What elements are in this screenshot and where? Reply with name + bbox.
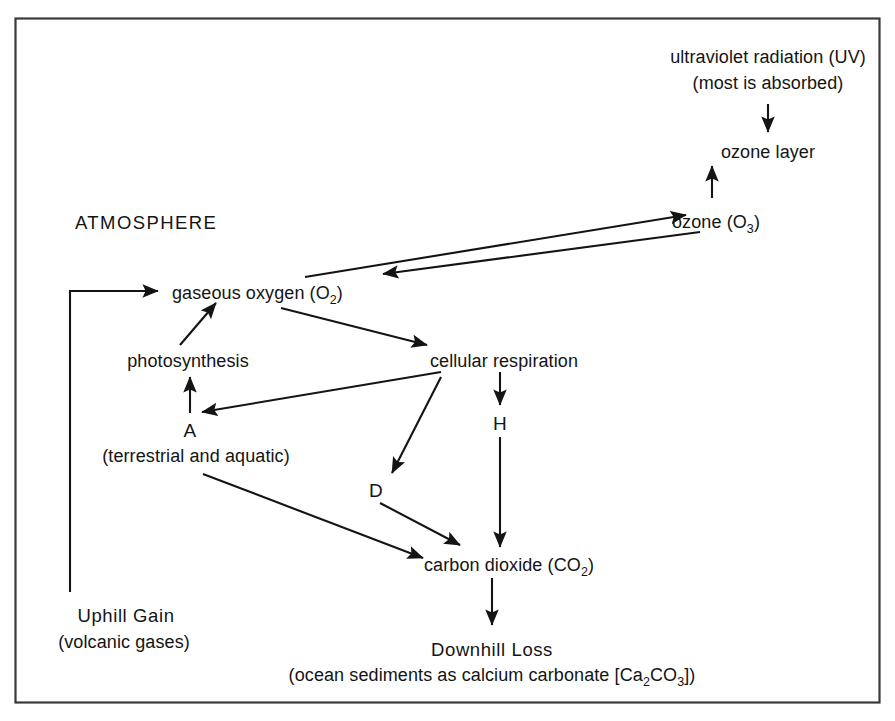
node-cellular-respiration: cellular respiration	[430, 351, 578, 371]
node-ozone-layer: ozone layer	[721, 142, 815, 162]
edge-uphill-gain-to-oxygen	[70, 291, 158, 592]
node-ozone: ozone (O3)	[672, 212, 760, 236]
edge-oxygen-to-cellular-respiration	[281, 308, 427, 345]
node-carbon-dioxide: carbon dioxide (CO2)	[424, 555, 594, 579]
node-downhill-loss-caption-sub1: 2	[643, 675, 650, 689]
node-downhill-loss-caption: (ocean sediments as calcium carbonate [C…	[289, 665, 696, 689]
node-ozone-subscript: 3	[747, 222, 754, 236]
node-ozone-main: ozone (O	[672, 212, 747, 232]
node-uphill-gain-caption: (volcanic gases)	[58, 632, 190, 652]
node-downhill-loss-caption-pre: (ocean sediments as calcium carbonate [C…	[289, 665, 644, 685]
node-a: A	[184, 420, 197, 441]
node-downhill-loss-caption-post: ])	[684, 665, 695, 685]
node-downhill-loss-caption-mid: CO	[650, 665, 677, 685]
edge-cellular-respiration-to-d	[392, 377, 441, 473]
node-carbon-dioxide-subscript: 2	[581, 565, 588, 579]
node-carbon-dioxide-close: )	[588, 555, 594, 575]
node-ozone-close: )	[754, 212, 760, 232]
node-gaseous-oxygen-subscript: 2	[330, 293, 337, 307]
diagram-root: ultraviolet radiation (UV) (most is abso…	[0, 0, 895, 721]
edge-a-to-carbon-dioxide	[203, 474, 423, 558]
node-d: D	[369, 480, 383, 501]
edge-d-to-carbon-dioxide	[380, 503, 460, 545]
node-gaseous-oxygen-main: gaseous oxygen (O	[172, 283, 330, 303]
edge-cellular-respiration-to-a	[202, 372, 441, 412]
node-h: H	[493, 413, 507, 434]
diagram-canvas: ultraviolet radiation (UV) (most is abso…	[0, 0, 895, 721]
node-uv-radiation-line1: ultraviolet radiation (UV)	[670, 47, 866, 67]
node-carbon-dioxide-main: carbon dioxide (CO	[424, 555, 581, 575]
node-gaseous-oxygen: gaseous oxygen (O2)	[172, 283, 343, 307]
node-a-caption: (terrestrial and aquatic)	[102, 446, 290, 466]
edge-photosynthesis-to-oxygen	[180, 303, 216, 345]
node-uphill-gain: Uphill Gain	[77, 605, 174, 626]
node-photosynthesis: photosynthesis	[127, 351, 248, 371]
node-downhill-loss-caption-sub2: 3	[677, 675, 684, 689]
node-uv-radiation-line2: (most is absorbed)	[693, 73, 844, 93]
node-downhill-loss: Downhill Loss	[431, 639, 553, 660]
region-label-atmosphere: ATMOSPHERE	[75, 212, 217, 233]
edge-oxygen-to-ozone	[305, 215, 686, 277]
node-gaseous-oxygen-close: )	[337, 283, 343, 303]
